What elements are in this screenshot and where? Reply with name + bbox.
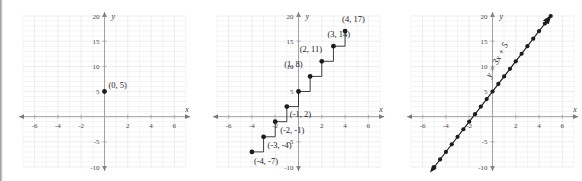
point-annotation: (-4, -7) [254,156,278,166]
chart-panel-3: xy-6-4-22462015105-5-10 y = 3x + 5 [388,0,582,181]
data-point [250,150,255,155]
data-point [502,74,506,78]
data-point [308,74,313,79]
y-tick-label: 15 [287,38,295,46]
data-point [525,44,529,48]
point-annotation: (-2, -1) [280,125,304,135]
data-point [537,29,541,33]
point-annotation: (-1, 2) [290,109,311,119]
y-tick-label: 5 [290,88,294,96]
point-annotation: (0, 5) [109,80,128,90]
data-point [461,127,465,131]
data-point [549,14,553,18]
panel-3-svg: xy-6-4-22462015105-5-10 y = 3x + 5 [388,0,582,181]
data-point [296,89,301,94]
chart-panel-1: xy-6-4-22462015105-5-10 (0, 5) [0,0,194,181]
y-axis-label: y [499,12,504,21]
x-tick-label: -4 [55,122,61,130]
y-tick-label: 10 [93,63,101,71]
data-point [473,112,477,116]
x-tick-label: -6 [32,122,38,130]
data-point [514,59,518,63]
data-point [508,67,512,71]
x-tick-label: 2 [126,122,130,130]
y-tick-label: -5 [94,138,100,146]
y-tick-label: 5 [96,88,100,96]
x-tick-label: 4 [149,122,153,130]
data-point [485,97,489,101]
data-point [467,120,471,124]
data-point [496,82,500,86]
x-tick-label: -4 [249,122,255,130]
x-tick-label: -2 [78,122,84,130]
x-tick-label: 6 [367,122,371,130]
x-axis-label: x [572,105,577,114]
x-axis-label: x [378,105,383,114]
y-axis-label: y [305,12,310,21]
data-point [331,44,336,49]
point-annotation: (1, 8) [284,59,303,69]
data-point [479,105,483,109]
panel-2-svg: xy-6-4-22462015105-5-10 (4, 17)(3, 14)(2… [194,0,388,181]
x-tick-label: 2 [514,122,518,130]
x-tick-label: 4 [537,122,541,130]
data-point [490,89,494,93]
y-tick-label: 20 [287,13,295,21]
y-tick-label: -10 [478,164,488,172]
data-point [284,104,289,109]
point-annotation: (-3, -4) [268,140,292,150]
data-point [531,37,535,41]
data-point [455,135,459,139]
data-point [102,89,107,94]
y-tick-label: 15 [93,38,101,46]
data-point [438,157,442,161]
y-tick-label: 5 [484,88,488,96]
figure-container: xy-6-4-22462015105-5-10 (0, 5) xy-6-4-22… [0,0,582,181]
data-point [543,21,547,25]
data-point [261,134,266,139]
x-tick-label: -6 [226,122,232,130]
x-tick-label: -6 [420,122,426,130]
y-tick-label: -10 [284,164,294,172]
data-series-3: y = 3x + 5 [428,14,553,174]
y-tick-label: -5 [482,138,488,146]
x-tick-label: 6 [561,122,565,130]
x-tick-label: 6 [173,122,177,130]
data-point [273,119,278,124]
y-tick-label: 20 [481,13,489,21]
point-annotation: (3, 14) [327,29,350,39]
x-tick-label: 2 [320,122,324,130]
point-annotation: (2, 11) [300,44,323,54]
panel-1-svg: xy-6-4-22462015105-5-10 (0, 5) [0,0,194,181]
data-point [520,52,524,56]
point-annotation: (4, 17) [342,14,365,24]
data-series-2: (4, 17)(3, 14)(2, 11)(1, 8)(-1, 2)(-2, -… [250,14,365,166]
y-tick-label: -10 [90,164,100,172]
x-tick-label: 4 [343,122,347,130]
data-point [319,59,324,64]
data-point [444,150,448,154]
chart-panel-2: xy-6-4-22462015105-5-10 (4, 17)(3, 14)(2… [194,0,388,181]
x-tick-label: -4 [443,122,449,130]
x-axis-label: x [184,105,189,114]
data-point [450,142,454,146]
y-tick-label: 15 [481,38,489,46]
y-axis-label: y [111,12,116,21]
y-tick-label: 20 [93,13,101,21]
data-point [432,165,436,169]
